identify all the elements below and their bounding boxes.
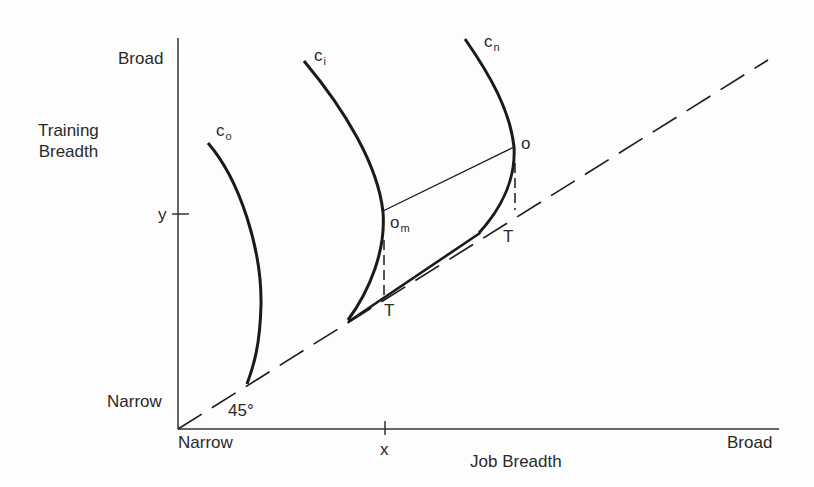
x-axis-title: Job Breadth <box>470 453 562 470</box>
y-tick-label: y <box>158 206 167 223</box>
x-axis-right-label: Broad <box>727 434 772 451</box>
point-om-label: om <box>390 214 410 231</box>
om-to-o-line <box>383 147 514 211</box>
x-tick-label: x <box>380 441 389 458</box>
y-axis-title: Training Breadth <box>38 120 99 162</box>
y-axis-top-label: Broad <box>118 50 163 67</box>
y-axis-bottom-label: Narrow <box>107 393 162 410</box>
curve-c-i-label: ci <box>314 47 326 64</box>
diagonal-solid-segment <box>348 233 480 322</box>
x-axis-left-label: Narrow <box>178 434 233 451</box>
y-axis-title-line1: Training <box>38 120 99 141</box>
point-o-label: o <box>521 135 530 152</box>
curve-c-o-label: co <box>216 122 232 139</box>
diagonal-45-line <box>178 60 768 429</box>
curve-c-n <box>465 39 514 233</box>
curve-c-i <box>304 61 383 320</box>
point-t-left-label: T <box>384 302 394 319</box>
point-t-right-label: T <box>503 228 513 245</box>
curve-c-n-label: cn <box>484 33 500 50</box>
angle-45-label: 45° <box>228 402 254 419</box>
diagram-canvas <box>0 0 814 487</box>
curve-c-o <box>208 143 261 384</box>
y-axis-title-line2: Breadth <box>38 141 99 162</box>
